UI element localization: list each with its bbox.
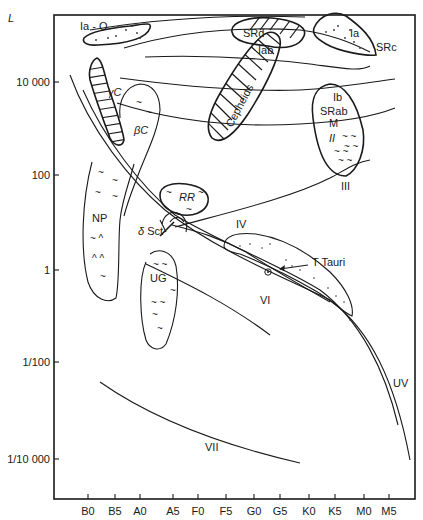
y-tick-label: 1/10 000 [7,453,50,465]
x-tick-label: G5 [273,505,288,517]
class-vii-line [100,382,300,463]
label-iab: Iab [258,44,273,56]
svg-text:^ ^: ^ ^ [92,253,104,264]
y-tick-label: 100 [32,169,50,181]
x-tick-label: F0 [192,505,205,517]
label-beta-c: βC [133,124,148,136]
x-tick-label: K0 [302,505,315,517]
region-rr: RR ~ ~ ~ [160,183,208,215]
x-tick-label: M0 [356,505,371,517]
label-t-tauri: T Tauri [312,256,345,268]
svg-text:~ ~: ~ ~ [338,155,353,166]
x-tick-label: F5 [220,505,233,517]
main-sequence [70,75,410,463]
hr-diagram: L 10 000 100 1 1/100 1/10 000 B0 B5 A0 A… [0,0,423,520]
region-srab: Ib SRab M II ~ ~ ~ ~ ~ ~ ~ ~ III [312,84,363,192]
label-gamma-c: γC [108,86,122,98]
svg-text:~: ~ [95,187,101,198]
label-np: NP [92,212,107,224]
x-tick-label: B5 [108,505,121,517]
x-tick-label: A5 [166,505,179,517]
y-tick-label: 10 000 [16,76,50,88]
svg-text:~: ~ [166,187,172,198]
region-ug: ~ ~ UG ~ ~ ~ ~ ~ [141,251,178,349]
svg-text:~: ~ [112,175,118,186]
label-srab: SRab [320,105,348,117]
region-ia-o: Ia - O [80,20,150,45]
x-tick-label: A0 [133,505,146,517]
svg-text:~: ~ [198,187,204,198]
y-axis-ticks: 10 000 100 1 1/100 1/10 000 [7,76,59,465]
svg-text:~ ~: ~ ~ [151,297,166,308]
y-tick-label: 1/100 [22,356,50,368]
svg-text:~: ~ [100,271,106,282]
svg-text:~: ~ [186,204,192,215]
y-tick-label: 1 [44,264,50,276]
svg-text:~: ~ [112,191,118,202]
label-ii: II [329,132,335,144]
label-ia: Ia [350,27,360,39]
label-iii: III [341,180,350,192]
svg-text:~: ~ [146,107,152,118]
label-ib: Ib [333,91,342,103]
svg-text:~: ~ [170,285,176,296]
label-src: SRc [376,41,397,53]
svg-text:~: ~ [136,97,142,108]
label-iv: IV [236,218,247,230]
label-m: M [329,117,338,129]
x-tick-label: G0 [247,505,262,517]
region-gamma-c: γC [86,58,134,145]
region-cepheids: Cepheids Iab [205,28,282,140]
svg-text:~ ^: ~ ^ [90,233,104,244]
label-uv: UV [393,377,409,389]
svg-text:~: ~ [157,323,163,334]
region-delta-sct: δ Sct [138,212,187,237]
label-vi: VI [260,294,270,306]
y-axis-label: L [8,12,14,24]
x-tick-label: K5 [328,505,341,517]
svg-text:~: ~ [98,167,104,178]
x-axis-ticks: B0 B5 A0 A5 F0 F5 G0 G5 K0 K5 M0 M5 [81,494,396,517]
label-ug: UG [150,272,167,284]
label-rr: RR [179,191,195,203]
svg-text:~: ~ [152,309,158,320]
label-delta-sct: δ Sct [138,225,163,237]
label-ia-o: Ia - O [80,20,108,32]
label-vii: VII [205,441,218,453]
region-np: ~ ~ ~ ~ NP ~ ^ ^ ^ ~ [83,162,134,301]
region-ia-src: Ia SRc [314,13,398,55]
x-tick-label: M5 [381,505,396,517]
region-beta-c: ~ ~ βC [120,84,160,216]
region-t-tauri: T Tauri IV [224,218,357,327]
x-tick-label: B0 [81,505,94,517]
svg-text:~ ~: ~ ~ [153,259,168,270]
region-srd: SRd [232,14,312,48]
